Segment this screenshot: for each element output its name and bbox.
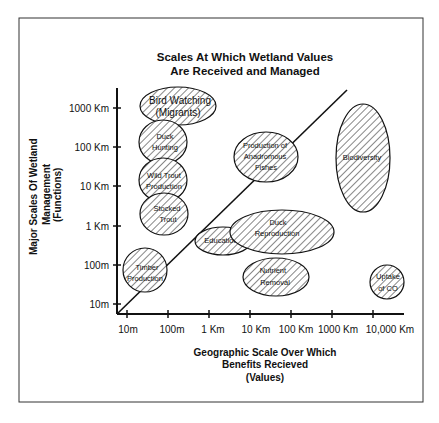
svg-text:Hunting: Hunting bbox=[152, 143, 178, 152]
svg-text:Fishes: Fishes bbox=[255, 163, 277, 172]
y-tick-label: 100 Km bbox=[75, 142, 109, 153]
x-tick-label: 100m bbox=[159, 324, 184, 335]
svg-text:Production of: Production of bbox=[243, 141, 288, 150]
title-line-1: Scales At Which Wetland Values bbox=[157, 51, 333, 63]
wetland-scales-diagram: Scales At Which Wetland Values Are Recei… bbox=[0, 0, 439, 423]
svg-text:Duck: Duck bbox=[269, 218, 286, 227]
svg-text:Anadromous: Anadromous bbox=[244, 152, 287, 161]
svg-text:Duck: Duck bbox=[156, 132, 173, 141]
x-axis-label-1: Geographic Scale Over Which bbox=[194, 347, 337, 358]
x-tick-label: 100 Km bbox=[279, 324, 313, 335]
svg-text:Management: Management bbox=[41, 163, 52, 225]
x-tick-label: 1000 Km bbox=[318, 324, 358, 335]
ellipse-duck-reproduction: Duck Reproduction bbox=[230, 210, 334, 254]
svg-text:Uptake: Uptake bbox=[376, 272, 400, 281]
x-tick-label: 10 Km bbox=[242, 324, 271, 335]
svg-text:Trout: Trout bbox=[159, 215, 177, 224]
svg-text:Production: Production bbox=[127, 274, 163, 283]
y-tick-label: 10m bbox=[90, 299, 109, 310]
svg-text:Biodiversity: Biodiversity bbox=[343, 153, 382, 162]
y-tick-label: 100m bbox=[84, 260, 109, 271]
svg-text:(Migrants): (Migrants) bbox=[155, 107, 200, 118]
y-tick-label: 10 Km bbox=[80, 181, 109, 192]
svg-text:Stocked: Stocked bbox=[153, 204, 180, 213]
y-tick-label: 1 Km bbox=[86, 221, 109, 232]
x-axis-label-3: (Values) bbox=[246, 372, 284, 383]
y-axis-label: Major Scales Of Wetland bbox=[28, 138, 39, 255]
x-axis-label-2: Benefits Recieved bbox=[222, 359, 308, 370]
svg-text:Wild Trout: Wild Trout bbox=[147, 171, 182, 180]
svg-text:Nutrient: Nutrient bbox=[260, 266, 287, 275]
y-tick-label: 1000 Km bbox=[69, 103, 109, 114]
svg-text:of CO: of CO bbox=[378, 284, 398, 293]
x-tick-label: 10,000 Km bbox=[366, 324, 414, 335]
ellipse-anadromous-fishes: Production of Anadromous Fishes bbox=[234, 132, 298, 182]
ellipse-timber-production: Timber Production bbox=[123, 248, 167, 292]
ellipse-uptake-of-co: Uptake of CO bbox=[370, 265, 404, 299]
ellipse-stocked-trout: Stocked Trout bbox=[140, 193, 188, 235]
svg-text:Major Scales Of Wetland: Major Scales Of Wetland bbox=[28, 138, 39, 255]
title-line-2: Are Received and Managed bbox=[170, 65, 320, 77]
svg-text:Reproduction: Reproduction bbox=[255, 229, 300, 238]
svg-text:(Functions): (Functions) bbox=[52, 168, 63, 222]
ellipse-biodiversity: Biodiversity bbox=[336, 104, 390, 212]
svg-text:Timber: Timber bbox=[135, 263, 159, 272]
ellipse-bird-watching: Bird Watching (Migrants) bbox=[140, 87, 216, 125]
svg-text:Bird Watching: Bird Watching bbox=[149, 95, 211, 106]
svg-text:Production: Production bbox=[146, 182, 182, 191]
svg-text:Removal: Removal bbox=[260, 278, 290, 287]
x-tick-label: 1 Km bbox=[201, 324, 224, 335]
x-tick-label: 10m bbox=[118, 324, 137, 335]
ellipse-nutrient-removal: Nutrient Removal bbox=[243, 258, 309, 296]
